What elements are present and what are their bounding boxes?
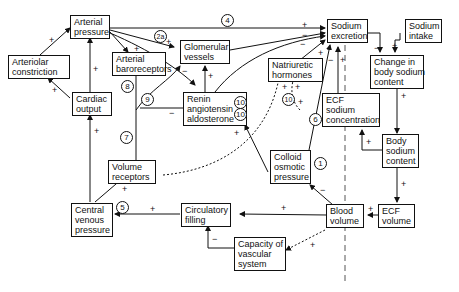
sign-minus: − bbox=[212, 235, 217, 244]
sign-plus: + bbox=[401, 92, 406, 101]
node-natriuretic-hormones: Natriuretichormones bbox=[268, 58, 323, 82]
sign-minus: − bbox=[328, 56, 333, 65]
node-glomerular-vessels: Glomerularvessels bbox=[180, 40, 230, 64]
node-sodium-intake: Sodiumintake bbox=[405, 19, 442, 43]
node-blood-volume: Bloodvolume bbox=[326, 204, 364, 228]
sign-plus: + bbox=[295, 83, 300, 92]
marker-7: 9 bbox=[141, 93, 154, 106]
sign-plus: + bbox=[134, 45, 139, 54]
node-sodium-excretion: Sodiumexcretion bbox=[327, 19, 368, 43]
sign-plus: + bbox=[49, 36, 54, 45]
sign-minus: − bbox=[182, 67, 187, 76]
sign-plus: + bbox=[392, 42, 397, 51]
node-arterial-baroreceptors: Arterialbaroreceptors bbox=[112, 52, 166, 76]
sign-plus: + bbox=[302, 21, 307, 30]
sign-plus: + bbox=[52, 86, 57, 95]
node-cardiac-output: Cardiacoutput bbox=[72, 92, 112, 116]
sign-plus: + bbox=[166, 38, 171, 47]
sign-plus: + bbox=[368, 205, 373, 214]
sign-plus: + bbox=[234, 129, 239, 138]
node-ecf-sodium-concentration: ECFsodiumconcentration bbox=[322, 93, 380, 127]
node-body-sodium-content: Bodysodiumcontent bbox=[382, 134, 419, 168]
sign-plus: + bbox=[401, 180, 406, 189]
sign-plus: + bbox=[318, 49, 323, 58]
sign-plus: + bbox=[208, 72, 213, 81]
node-capacity-vascular-system: Capacity ofvascularsystem bbox=[234, 237, 286, 271]
sign-plus: + bbox=[298, 98, 303, 107]
sign-plus: + bbox=[340, 56, 345, 65]
marker-2: 4 bbox=[221, 14, 234, 27]
sign-plus: + bbox=[366, 138, 371, 147]
node-change-body-sodium: Change inbody sodiumcontent bbox=[370, 55, 424, 89]
marker-5: 7 bbox=[120, 131, 133, 144]
node-colloid-osmotic-pressure: Colloidosmoticpressure bbox=[270, 150, 311, 184]
sign-minus: − bbox=[320, 186, 325, 195]
marker-1: 1 bbox=[314, 157, 327, 170]
node-volume-receptors: Volumereceptors bbox=[108, 160, 156, 184]
sign-plus: + bbox=[93, 65, 98, 74]
marker-6: 8 bbox=[121, 80, 134, 93]
sign-plus: + bbox=[150, 205, 155, 214]
marker-10: 10 bbox=[282, 93, 295, 106]
node-arteriolar-constriction: Arteriolarconstriction bbox=[8, 55, 70, 79]
node-central-venous-pressure: Centralvenouspressure bbox=[71, 203, 113, 237]
node-ecf-volume: ECFvolume bbox=[378, 204, 415, 228]
marker-4: 6 bbox=[309, 113, 322, 126]
sign-minus: − bbox=[374, 44, 379, 53]
sign-plus: + bbox=[122, 185, 127, 194]
sign-plus: + bbox=[310, 241, 315, 250]
sign-plus: + bbox=[94, 127, 99, 136]
marker-9: 10 bbox=[234, 108, 247, 121]
sign-plus: + bbox=[281, 204, 286, 213]
sign-minus: − bbox=[300, 40, 305, 49]
node-circulatory-filling: Circulatoryfilling bbox=[181, 203, 231, 227]
node-arterial-pressure: Arterialpressure bbox=[70, 15, 110, 39]
sign-plus: + bbox=[282, 83, 287, 92]
marker-3: 5 bbox=[116, 201, 129, 214]
sign-minus: − bbox=[169, 109, 174, 118]
